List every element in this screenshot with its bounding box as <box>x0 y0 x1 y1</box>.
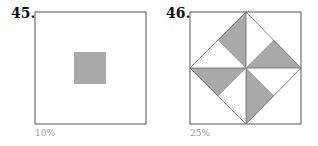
figures <box>0 0 318 146</box>
figure-46 <box>190 12 301 124</box>
answer-45: 10% <box>35 128 55 138</box>
figure-45 <box>35 12 146 124</box>
answer-46: 25% <box>190 128 210 138</box>
